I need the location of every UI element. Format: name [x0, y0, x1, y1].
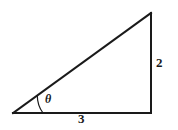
right-triangle-figure: 3 2 θ [0, 0, 178, 130]
vertical-side-length-label: 2 [156, 56, 163, 69]
angle-theta-label: θ [45, 93, 51, 105]
base-length-label: 3 [78, 112, 85, 125]
triangle-drawing [0, 0, 178, 130]
triangle-hypotenuse-line [13, 13, 151, 113]
angle-arc-icon [37, 95, 43, 113]
